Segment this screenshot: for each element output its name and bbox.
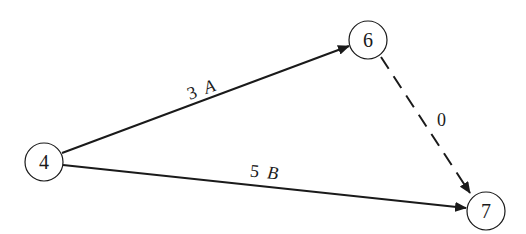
edge-6-to-7-dummy — [381, 57, 470, 193]
edge-label-4-7: 5 B — [249, 160, 279, 183]
node-label-6: 6 — [363, 29, 373, 51]
edge-4-to-7 — [63, 165, 466, 208]
edge-label-6-7: 0 — [437, 110, 446, 130]
edge-4-to-6 — [62, 46, 349, 153]
network-diagram: 3 A 5 B 0 4 6 7 — [0, 0, 526, 234]
node-4: 4 — [25, 143, 63, 181]
node-label-4: 4 — [39, 151, 49, 173]
node-7: 7 — [467, 192, 505, 230]
node-6: 6 — [349, 21, 387, 59]
node-label-7: 7 — [481, 200, 491, 222]
edge-label-4-6: 3 A — [184, 75, 219, 104]
